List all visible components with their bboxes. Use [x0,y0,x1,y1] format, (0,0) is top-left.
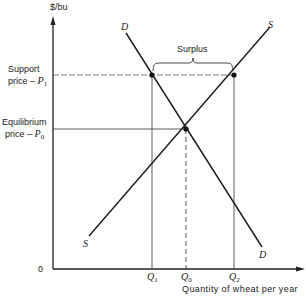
demand-label-bottom: D [259,249,266,260]
equilibrium-price-line1: Equilibrium [2,117,47,128]
x-axis-arrow-icon [296,267,305,272]
support-price-label: Support price – P1 [8,64,47,90]
equilibrium-price-line2: price – P0 [2,128,47,143]
supply-label-top: S [268,19,273,30]
surplus-label: Surplus [177,44,208,55]
supply-label-bottom: S [83,238,88,249]
demand-label-top: D [121,21,128,32]
support-price-line2: price – P1 [8,75,47,90]
y-axis-label: $/bu [50,2,68,13]
q0-label: Q0 [181,271,192,286]
q2-label: Q2 [229,271,240,286]
point-equilibrium [183,126,188,131]
equilibrium-price-label: Equilibrium price – P0 [2,117,47,143]
point-q1-support [149,72,154,77]
point-q2-support [231,72,236,77]
x-axis-label: Quantity of wheat per year [182,284,298,295]
support-price-line1: Support [8,64,47,75]
demand-curve [126,33,262,247]
surplus-brace [153,58,233,71]
y-axis-arrow-icon [51,16,56,25]
q1-label: Q1 [147,271,158,286]
origin-label: 0 [38,264,43,275]
supply-curve [89,27,270,236]
